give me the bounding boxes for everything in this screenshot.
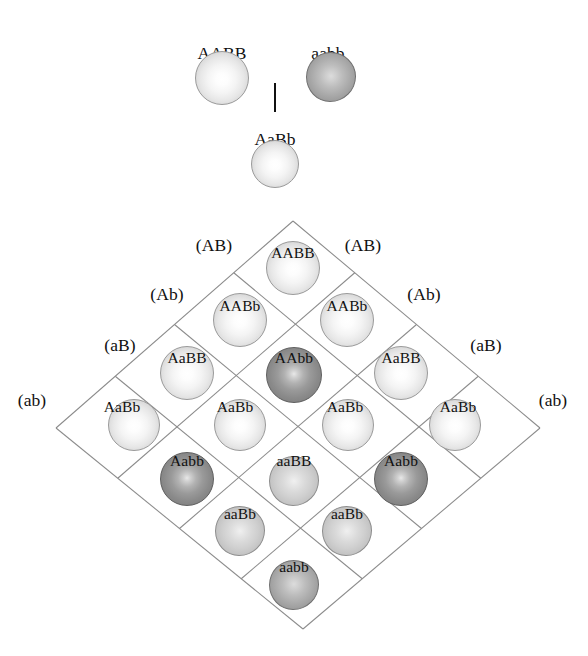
offspring-genotype-r2c3: aaBb — [224, 506, 256, 522]
punnett-square-figure: AABBaabbAaBb (AB)(Ab)(aB)(ab)(AB)(Ab)(aB… — [0, 0, 588, 656]
offspring-genotype-r1c3: Aabb — [170, 453, 204, 469]
offspring-genotype-r2c1: AaBb — [327, 399, 364, 415]
offspring-genotype-r0c0: AABB — [271, 245, 314, 261]
parent-f1-aabb-sphere — [251, 140, 299, 188]
offspring-genotype-r0c1: AABb — [220, 298, 261, 314]
offspring-genotype-r1c0: AABb — [327, 298, 368, 314]
offspring-genotype-r2c2: aaBB — [277, 453, 312, 469]
offspring-genotype-r1c1: AAbb — [275, 350, 313, 366]
gamete-label-left-2: (aB) — [104, 337, 136, 355]
offspring-genotype-r0c2: AaBB — [167, 350, 206, 366]
cross-connector-line — [274, 83, 276, 112]
offspring-genotype-r1c2: AaBb — [217, 399, 254, 415]
gamete-label-left-1: (Ab) — [150, 286, 183, 304]
gamete-label-left-3: (ab) — [18, 392, 47, 410]
gamete-label-right-1: (Ab) — [407, 286, 440, 304]
gamete-label-right-3: (ab) — [539, 392, 568, 410]
parent-aabb-dominant-sphere — [195, 51, 249, 105]
offspring-genotype-r3c3: aabb — [279, 559, 309, 575]
offspring-genotype-r0c3: AaBb — [104, 399, 141, 415]
parent-aabb-recessive-sphere — [306, 52, 356, 102]
offspring-genotype-r3c2: aaBb — [331, 506, 363, 522]
offspring-genotype-r2c0: AaBB — [381, 350, 420, 366]
gamete-label-left-0: (AB) — [196, 237, 232, 255]
gamete-label-right-0: (AB) — [345, 237, 381, 255]
gamete-label-right-2: (aB) — [470, 337, 502, 355]
offspring-genotype-r3c1: Aabb — [384, 453, 418, 469]
offspring-genotype-r3c0: AaBb — [440, 399, 477, 415]
